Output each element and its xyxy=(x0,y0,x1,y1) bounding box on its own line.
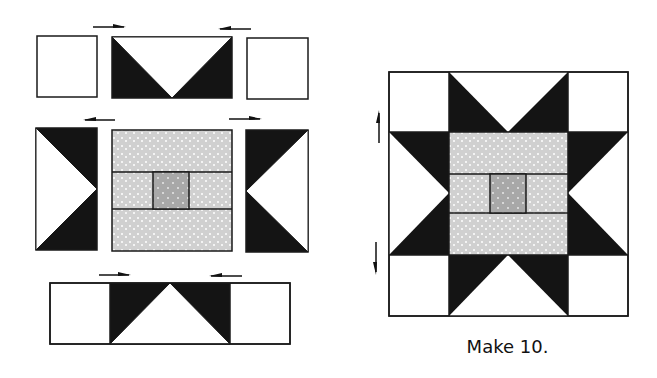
caption: Make 10. xyxy=(440,336,575,357)
press-arrow-right-bottom xyxy=(99,272,131,276)
press-arrow-left-bottom xyxy=(209,273,242,277)
square-top-left xyxy=(37,36,97,97)
quilt-diagram xyxy=(0,0,657,378)
press-arrow-down xyxy=(373,242,377,275)
finished-star-block xyxy=(389,72,628,316)
flying-geese-left xyxy=(36,128,97,250)
press-arrow-up xyxy=(376,110,380,143)
center-unit xyxy=(112,130,232,251)
press-arrow-right-top xyxy=(93,24,126,28)
press-arrow-left-top xyxy=(218,26,251,30)
press-arrow-left-middle xyxy=(83,117,115,121)
flying-geese-right xyxy=(246,130,308,252)
square-top-right xyxy=(247,38,308,99)
bottom-row-strip xyxy=(50,283,290,344)
press-arrow-right-middle xyxy=(229,116,262,120)
flying-geese-top xyxy=(112,37,232,98)
center-square xyxy=(153,172,189,209)
